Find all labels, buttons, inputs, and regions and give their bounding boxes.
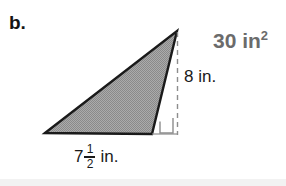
area-number: 30 in [213, 29, 261, 52]
height-dimension-label: 8 in. [184, 68, 216, 85]
base-fraction-denominator: 2 [86, 158, 95, 171]
area-exponent: 2 [261, 28, 268, 43]
right-angle-marker-icon [160, 118, 173, 133]
base-unit: in. [100, 148, 118, 165]
base-fraction: 1 2 [84, 143, 95, 171]
base-fraction-numerator: 1 [86, 143, 95, 156]
part-label: b. [9, 13, 26, 32]
base-whole-number: 7 [74, 148, 83, 165]
area-value: 30 in2 [213, 30, 268, 51]
base-dimension-label: 7 1 2 in. [74, 143, 118, 171]
triangle-shape [45, 31, 177, 134]
geometry-figure [0, 0, 286, 186]
page-bottom-band [0, 179, 286, 186]
